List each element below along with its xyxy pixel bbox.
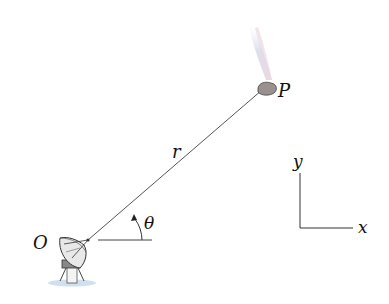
polar-coordinates-diagram: O P r θ y x [0,0,389,304]
radar-dish-icon [48,237,96,286]
radius-label: r [172,141,182,162]
angle-label: θ [144,213,154,233]
origin-label: O [33,232,48,253]
radius-line [88,90,262,240]
diagram-canvas: O P r θ y x [0,0,389,304]
angle-arc [135,219,142,240]
point-label: P [277,80,291,101]
axes-indicator [300,173,353,228]
meteor-icon [258,82,276,95]
meteor-trail-icon [247,20,272,80]
x-axis-label: x [358,217,368,237]
y-axis-label: y [292,151,303,171]
arrowhead-icon [131,214,137,221]
